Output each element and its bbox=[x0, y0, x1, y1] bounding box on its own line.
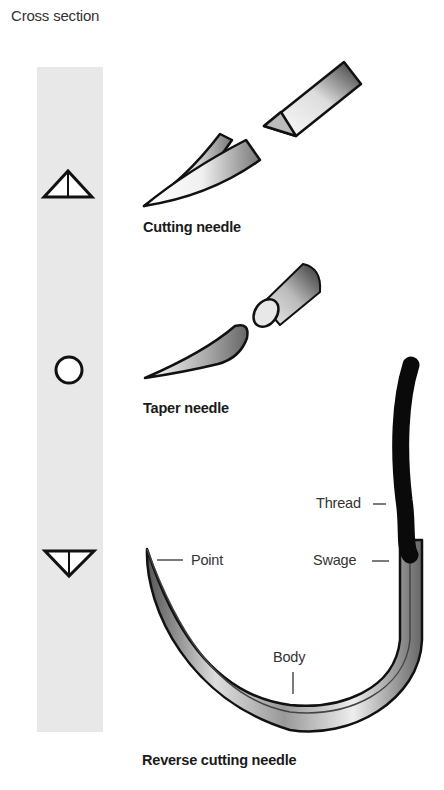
reverse-cutting-needle-caption: Reverse cutting needle bbox=[142, 752, 296, 768]
point-label: Point bbox=[191, 552, 223, 568]
circle-icon bbox=[56, 357, 82, 383]
cutting-needle-caption: Cutting needle bbox=[143, 219, 241, 235]
thread-label: Thread bbox=[316, 495, 361, 511]
taper-needle-icon bbox=[145, 264, 320, 378]
needle-illustrations bbox=[0, 0, 444, 790]
taper-needle-caption: Taper needle bbox=[143, 400, 229, 416]
body-label: Body bbox=[273, 649, 305, 665]
reverse-cutting-needle-icon bbox=[147, 365, 422, 732]
triangle-down-icon bbox=[45, 551, 94, 576]
swage-label: Swage bbox=[313, 552, 356, 568]
cutting-needle-icon bbox=[144, 62, 361, 206]
triangle-up-icon bbox=[44, 171, 92, 197]
